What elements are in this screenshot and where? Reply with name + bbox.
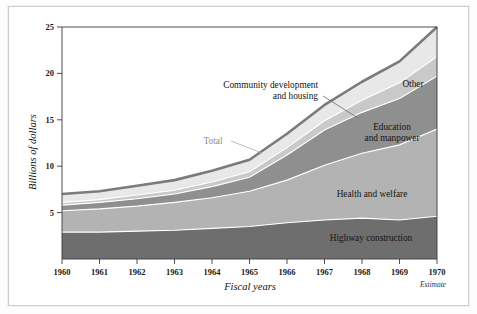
chart-page: 510152025 196019611962196319641965196619… <box>0 0 477 314</box>
y-tick-label-10: 10 <box>46 161 55 171</box>
x-tick-label-1961: 1961 <box>91 267 108 277</box>
y-tick-label-20: 20 <box>46 68 55 78</box>
series-label-total: Total <box>204 136 223 146</box>
y-tick-label-5: 5 <box>50 208 54 218</box>
x-tick-label-1966: 1966 <box>279 267 296 277</box>
x-tick-label-1965: 1965 <box>241 267 258 277</box>
x-tick-label-1960: 1960 <box>54 267 71 277</box>
y-tick-label-25: 25 <box>46 22 55 32</box>
y-axis-ticks: 510152025 <box>46 22 63 218</box>
series-label-other: Other <box>402 79 424 89</box>
x-tick-label-1968: 1968 <box>354 267 371 277</box>
series-label-health: Health and welfare <box>337 189 408 199</box>
x-tick-label-1970: 1970 <box>429 267 446 277</box>
y-tick-label-15: 15 <box>46 115 55 125</box>
x-axis-title: Fiscal years <box>223 281 276 292</box>
series-label-community-line2: and housing <box>273 91 319 101</box>
series-label-community-line1: Community development <box>223 80 318 90</box>
x-tick-label-1964: 1964 <box>204 267 222 277</box>
estimate-note: Estimate <box>419 280 447 289</box>
x-tick-label-1962: 1962 <box>129 267 146 277</box>
x-axis-ticks: 1960196119621963196419651966196719681969… <box>54 259 446 277</box>
series-label-highway: Highway construction <box>330 233 413 243</box>
y-axis-title: Billions of dollars <box>27 114 38 190</box>
x-tick-label-1969: 1969 <box>391 267 408 277</box>
series-label-education-line2: and manpower <box>365 133 421 143</box>
stacked-area-chart: 510152025 196019611962196319641965196619… <box>0 0 477 314</box>
x-tick-label-1963: 1963 <box>166 267 183 277</box>
series-label-education-line1: Education <box>373 122 411 132</box>
chart-container: 510152025 196019611962196319641965196619… <box>0 0 477 314</box>
x-tick-label-1967: 1967 <box>316 267 334 277</box>
